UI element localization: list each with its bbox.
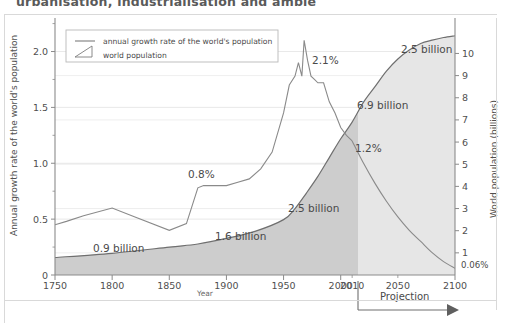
y-axis-right-ticks: 12345678910 <box>455 48 474 258</box>
y-axis-right-label: World population (billions) <box>489 100 499 218</box>
annotation-pop-1900: 1.6 billion <box>215 230 266 242</box>
projection-arrow-icon <box>447 304 459 316</box>
y-axis-right-tick-label: 9 <box>462 70 468 81</box>
page-border-top <box>4 14 497 15</box>
annotation-rate-2010: 1.2% <box>355 142 382 154</box>
y-axis-right-tick-label: 7 <box>462 114 468 125</box>
page-border-bottom <box>4 300 497 301</box>
x-axis-tick-label: 1750 <box>43 280 67 291</box>
x-axis-tick-label: 1850 <box>157 280 181 291</box>
clipped-heading-text: urbanisation, industrialisation and ambi… <box>16 0 316 8</box>
y-axis-left-ticks: 00.51.01.52.0 <box>33 24 55 281</box>
page-border-right <box>496 18 497 310</box>
population-growth-chart: 00.51.01.52.0 12345678910 17501800185019… <box>0 0 511 323</box>
y-axis-right-tick-label: 3 <box>462 203 468 214</box>
right-axis-extra-label: 0.06% <box>461 260 488 270</box>
y-axis-right-tick-label: 6 <box>462 137 468 148</box>
x-axis-tick-label: 2050 <box>386 280 410 291</box>
y-axis-right-tick-label: 2 <box>462 225 468 236</box>
x-axis-tick-label: 2010 <box>340 280 364 291</box>
annotation-pop-1950: 2.5 billion <box>288 202 339 214</box>
x-axis-tick-label: 1800 <box>100 280 124 291</box>
x-axis-ticks: 175018001850190019502000201020502100 <box>43 275 467 291</box>
annotation-pop-2010: 6.9 billion <box>357 99 408 111</box>
y-axis-left-tick-label: 1.0 <box>33 158 48 169</box>
chart-legend: annual growth rate of the world's popula… <box>66 30 278 62</box>
x-axis-tick-label: 2100 <box>443 280 467 291</box>
y-axis-left-label: Annual growth rate of the world's popula… <box>9 35 19 236</box>
legend-box <box>66 30 278 62</box>
y-axis-left-tick-label: 2.0 <box>33 46 48 57</box>
legend-label-population: world population <box>103 51 167 60</box>
y-axis-right-tick-label: 4 <box>462 181 468 192</box>
y-axis-left-tick-label: 0.5 <box>33 214 48 225</box>
y-axis-right-tick-label: 10 <box>462 48 474 59</box>
y-axis-right-tick-label: 1 <box>462 247 468 258</box>
annotation-pop-2100-added: 2.5 billion <box>401 43 452 55</box>
x-axis-tick-label: 1950 <box>271 280 295 291</box>
chart-page: urbanisation, industrialisation and ambi… <box>0 0 511 323</box>
page-border-left <box>4 14 5 323</box>
y-axis-right-tick-label: 8 <box>462 92 468 103</box>
x-axis-tick-label: 1900 <box>214 280 238 291</box>
y-axis-right-tick-label: 5 <box>462 159 468 170</box>
x-axis-label: Year <box>196 289 214 298</box>
y-axis-left-tick-label: 0 <box>42 270 48 281</box>
annotation-rate-1900: 0.8% <box>188 168 215 180</box>
annotation-pop-1800: 0.9 billion <box>93 242 144 254</box>
legend-label-growth-rate: annual growth rate of the world's popula… <box>103 37 273 46</box>
annotation-rate-peak: 2.1% <box>312 54 339 66</box>
y-axis-left-tick-label: 1.5 <box>33 102 48 113</box>
